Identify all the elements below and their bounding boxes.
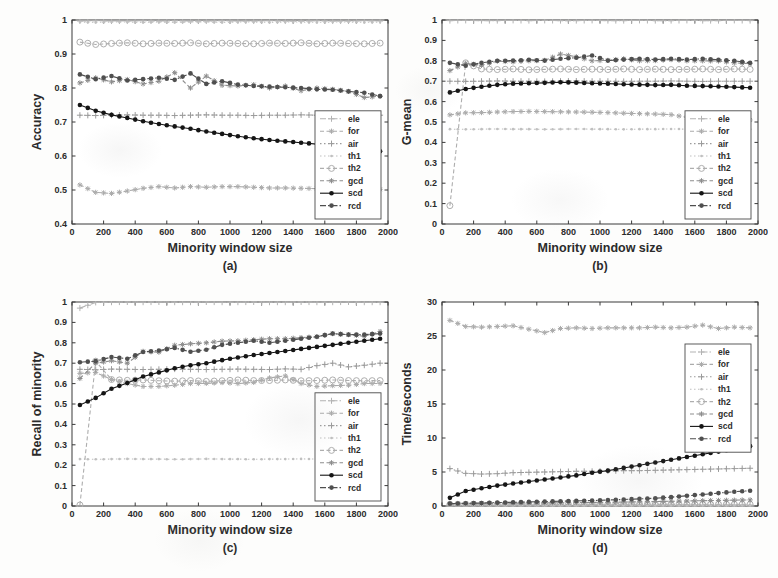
star-marker xyxy=(503,109,508,114)
dot-marker xyxy=(181,21,184,24)
y-axis-label: Recall of minority xyxy=(30,352,44,457)
dot-marker xyxy=(308,458,311,461)
star-marker xyxy=(141,81,146,86)
filled-circle-marker xyxy=(732,59,737,64)
star-marker xyxy=(676,325,681,330)
filled-circle-marker xyxy=(212,345,217,350)
filled-circle-marker xyxy=(606,468,611,473)
subplot-caption: (d) xyxy=(592,541,607,555)
filled-circle-marker xyxy=(653,496,658,501)
legend: eleforairth1th2gcdscdrcd xyxy=(685,344,751,452)
filled-circle-marker xyxy=(479,84,484,89)
dot-marker xyxy=(87,21,90,24)
y-tick-label: 25 xyxy=(427,331,437,341)
filled-circle-marker xyxy=(109,355,114,360)
filled-circle-marker xyxy=(101,391,106,396)
filled-circle-marker xyxy=(259,137,264,142)
dot-marker xyxy=(260,458,263,461)
filled-circle-marker xyxy=(574,473,579,478)
x-tick-label: 1200 xyxy=(622,227,642,237)
dot-marker xyxy=(567,128,570,131)
filled-circle-marker xyxy=(125,381,130,386)
filled-circle-marker xyxy=(165,123,170,128)
filled-circle-marker xyxy=(748,488,753,493)
filled-circle-marker xyxy=(661,495,666,500)
x-tick-label: 0 xyxy=(69,227,74,237)
filled-circle-marker xyxy=(700,56,705,61)
y-tick-label: 1 xyxy=(62,15,67,25)
filled-circle-marker xyxy=(125,356,130,361)
filled-circle-marker xyxy=(448,501,453,506)
filled-circle-marker xyxy=(566,80,571,85)
filled-circle-marker xyxy=(645,83,650,88)
filled-circle-marker xyxy=(236,134,241,139)
x-tick-label: 200 xyxy=(466,509,481,519)
filled-circle-marker xyxy=(157,370,162,375)
filled-circle-marker xyxy=(244,354,249,359)
star-marker xyxy=(77,80,82,85)
filled-circle-marker xyxy=(228,81,233,86)
star-marker xyxy=(329,460,334,465)
star-marker xyxy=(748,497,753,502)
star-marker xyxy=(267,185,272,190)
legend-label: rcd xyxy=(718,201,731,211)
x-tick-label: 600 xyxy=(159,227,174,237)
filled-circle-marker xyxy=(172,346,177,351)
dot-marker xyxy=(347,21,350,24)
filled-circle-marker xyxy=(228,342,233,347)
legend-label: for xyxy=(718,126,730,136)
filled-circle-marker xyxy=(299,347,304,352)
chart-gmean-svg: 020040060080010001200140016001800200000.… xyxy=(398,8,768,284)
dot-marker xyxy=(158,458,161,461)
star-marker xyxy=(740,497,745,502)
star-marker xyxy=(550,109,555,114)
filled-circle-marker xyxy=(700,452,705,457)
filled-circle-marker xyxy=(362,332,367,337)
filled-circle-marker xyxy=(653,83,658,88)
filled-circle-marker xyxy=(503,58,508,63)
filled-circle-marker xyxy=(109,74,114,79)
filled-circle-marker xyxy=(117,76,122,81)
filled-circle-marker xyxy=(685,83,690,88)
filled-circle-marker xyxy=(157,122,162,127)
x-tick-label: 400 xyxy=(498,509,513,519)
star-marker xyxy=(148,185,153,190)
star-marker xyxy=(582,326,587,331)
filled-circle-marker xyxy=(724,58,729,63)
star-marker xyxy=(724,325,729,330)
filled-circle-marker xyxy=(330,87,335,92)
star-marker xyxy=(125,361,130,366)
dot-marker xyxy=(449,128,452,131)
filled-circle-marker xyxy=(133,353,138,358)
filled-circle-marker xyxy=(93,77,98,82)
star-marker xyxy=(495,324,500,329)
filled-circle-marker xyxy=(456,88,461,93)
star-marker xyxy=(732,498,737,503)
x-tick-label: 0 xyxy=(439,509,444,519)
x-tick-label: 1400 xyxy=(283,227,303,237)
filled-circle-marker xyxy=(329,191,334,196)
y-tick-label: 15 xyxy=(427,399,437,409)
subplot-caption: (a) xyxy=(223,259,238,273)
filled-circle-marker xyxy=(487,500,492,505)
filled-circle-marker xyxy=(188,363,193,368)
dot-marker xyxy=(134,458,137,461)
star-marker xyxy=(526,327,531,332)
y-tick-label: 0.3 xyxy=(54,440,67,450)
filled-circle-marker xyxy=(463,87,468,92)
filled-circle-marker xyxy=(323,87,328,92)
dot-marker xyxy=(678,128,681,131)
dot-marker xyxy=(308,21,311,24)
filled-circle-marker xyxy=(708,491,713,496)
star-marker xyxy=(605,325,610,330)
star-marker xyxy=(204,185,209,190)
legend-label: th2 xyxy=(718,163,731,173)
filled-circle-marker xyxy=(196,348,201,353)
x-tick-label: 800 xyxy=(561,509,576,519)
filled-circle-marker xyxy=(629,464,634,469)
star-marker xyxy=(212,184,217,189)
filled-circle-marker xyxy=(117,356,122,361)
filled-circle-marker xyxy=(180,125,185,130)
star-marker xyxy=(566,326,571,331)
filled-circle-marker xyxy=(699,203,704,208)
